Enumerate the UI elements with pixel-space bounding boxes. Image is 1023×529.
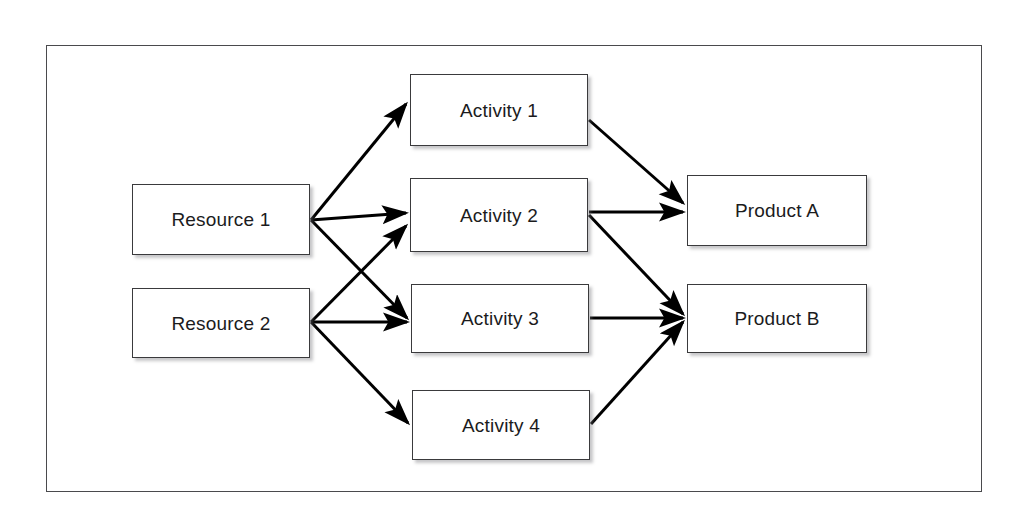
edge-activity1-productA (589, 120, 683, 203)
node-activity-1[interactable]: Activity 1 (410, 74, 588, 146)
node-resource-2[interactable]: Resource 2 (132, 288, 310, 358)
edge-resource1-activity3 (311, 220, 407, 318)
edge-resource1-activity1 (311, 104, 406, 220)
node-activity-2[interactable]: Activity 2 (410, 178, 588, 252)
node-label: Activity 3 (461, 309, 539, 328)
edge-activity2-productB (589, 215, 683, 314)
node-resource-1[interactable]: Resource 1 (132, 184, 310, 255)
edge-resource2-activity4 (311, 322, 408, 423)
node-label: Activity 2 (460, 206, 538, 225)
edge-resource1-activity2 (311, 213, 406, 220)
edge-activity4-productB (591, 322, 683, 424)
node-label: Product B (734, 309, 819, 328)
node-label: Product A (735, 201, 819, 220)
node-activity-4[interactable]: Activity 4 (412, 390, 590, 460)
node-label: Activity 4 (462, 416, 540, 435)
node-activity-3[interactable]: Activity 3 (411, 284, 589, 353)
diagram-canvas: Resource 1 Resource 2 Activity 1 Activit… (0, 0, 1023, 529)
node-label: Resource 2 (171, 314, 270, 333)
node-product-a[interactable]: Product A (687, 175, 867, 246)
node-product-b[interactable]: Product B (687, 284, 867, 353)
node-label: Activity 1 (460, 101, 538, 120)
edge-resource2-activity2 (311, 226, 406, 322)
node-label: Resource 1 (171, 210, 270, 229)
